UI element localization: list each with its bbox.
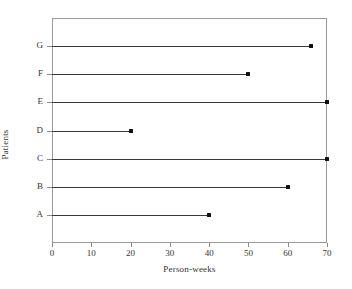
x-tick-mark bbox=[91, 243, 92, 247]
data-point-d bbox=[129, 129, 133, 133]
y-tick-label-b: B bbox=[19, 182, 43, 191]
x-tick-label: 30 bbox=[150, 248, 190, 258]
x-tick-label: 50 bbox=[228, 248, 268, 258]
data-point-c bbox=[325, 157, 329, 161]
y-tick-label-a: A bbox=[19, 210, 43, 219]
y-axis-title: Patients bbox=[0, 0, 18, 289]
stem-f bbox=[52, 74, 248, 75]
data-point-f bbox=[246, 72, 250, 76]
stem-b bbox=[52, 187, 288, 188]
lollipop-chart-figure: Patients 010203040506070 GFEDCBA Person-… bbox=[0, 0, 352, 289]
y-tick-label-e: E bbox=[19, 97, 43, 106]
x-axis-title: Person-weeks bbox=[52, 264, 327, 274]
x-tick-mark bbox=[209, 243, 210, 247]
stem-d bbox=[52, 131, 131, 132]
x-tick-mark bbox=[288, 243, 289, 247]
x-tick-mark bbox=[248, 243, 249, 247]
data-point-a bbox=[207, 213, 211, 217]
x-tick-label: 60 bbox=[268, 248, 308, 258]
y-tick-label-d: D bbox=[19, 126, 43, 135]
x-tick-label: 40 bbox=[189, 248, 229, 258]
data-point-g bbox=[309, 44, 313, 48]
x-tick-mark bbox=[131, 243, 132, 247]
x-tick-mark bbox=[327, 243, 328, 247]
x-tick-label: 0 bbox=[32, 248, 72, 258]
data-point-b bbox=[286, 185, 290, 189]
x-tick-label: 20 bbox=[111, 248, 151, 258]
x-tick-mark bbox=[52, 243, 53, 247]
x-tick-mark bbox=[170, 243, 171, 247]
y-tick-label-c: C bbox=[19, 154, 43, 163]
stem-e bbox=[52, 102, 327, 103]
data-point-e bbox=[325, 100, 329, 104]
x-tick-label: 10 bbox=[71, 248, 111, 258]
x-tick-label: 70 bbox=[307, 248, 347, 258]
stem-a bbox=[52, 215, 209, 216]
y-tick-label-f: F bbox=[19, 69, 43, 78]
y-tick-label-g: G bbox=[19, 41, 43, 50]
stem-g bbox=[52, 46, 311, 47]
stem-c bbox=[52, 159, 327, 160]
